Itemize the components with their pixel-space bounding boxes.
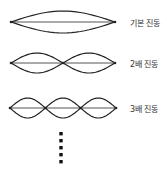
node-point <box>79 107 82 110</box>
wave-envelope-upper <box>11 11 115 22</box>
node-point <box>44 107 47 110</box>
mode-label-fundamental: 기본 진동 <box>130 17 160 28</box>
wave-envelope-lower <box>10 108 116 118</box>
wave-envelope-upper <box>11 53 115 63</box>
mode-label-2nd-harmonic: 2배 진동 <box>130 58 158 69</box>
node-point <box>10 21 13 24</box>
node-point <box>62 62 65 65</box>
mode-label-3rd-harmonic: 3배 진동 <box>130 103 158 114</box>
node-point <box>10 62 13 65</box>
standing-wave-2nd-harmonic <box>10 53 117 73</box>
standing-wave-fundamental <box>10 11 117 33</box>
node-point <box>114 21 117 24</box>
node-point <box>9 107 12 110</box>
node-point <box>115 107 118 110</box>
wave-envelope-lower <box>11 22 115 33</box>
standing-wave-3rd-harmonic <box>9 98 118 118</box>
wave-envelope-upper <box>10 98 116 108</box>
node-point <box>114 62 117 65</box>
wave-envelope-lower <box>11 63 115 73</box>
continuation-dots-icon <box>59 132 62 163</box>
